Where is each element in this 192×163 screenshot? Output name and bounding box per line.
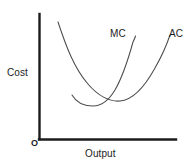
origin-label: O bbox=[31, 138, 38, 149]
mc-curve-label: MC bbox=[110, 28, 126, 39]
chart-canvas bbox=[0, 0, 192, 163]
cost-curves-figure: Cost Output MC AC O bbox=[0, 0, 192, 163]
ac-curve-label: AC bbox=[169, 28, 183, 39]
mc-curve bbox=[72, 36, 136, 106]
x-axis-label: Output bbox=[85, 148, 116, 159]
y-axis-label: Cost bbox=[7, 67, 28, 78]
